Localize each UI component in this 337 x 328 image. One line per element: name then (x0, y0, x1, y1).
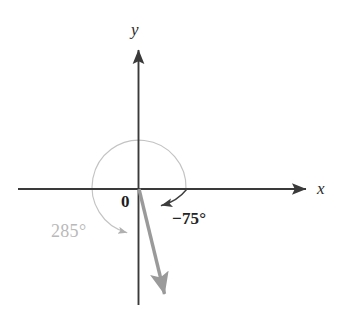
coordinate-plane-svg (0, 0, 337, 328)
positive-angle-label: 285° (51, 222, 86, 240)
angle-diagram-figure: y x 0 −75° 285° (0, 0, 337, 328)
negative-angle-arc-75 (162, 189, 188, 206)
terminal-side-ray (139, 189, 165, 294)
y-axis-label: y (131, 21, 139, 38)
negative-angle-label: −75° (172, 210, 206, 227)
arc-75-path (162, 189, 188, 206)
origin-label: 0 (121, 193, 130, 210)
x-axis-label: x (317, 180, 325, 197)
